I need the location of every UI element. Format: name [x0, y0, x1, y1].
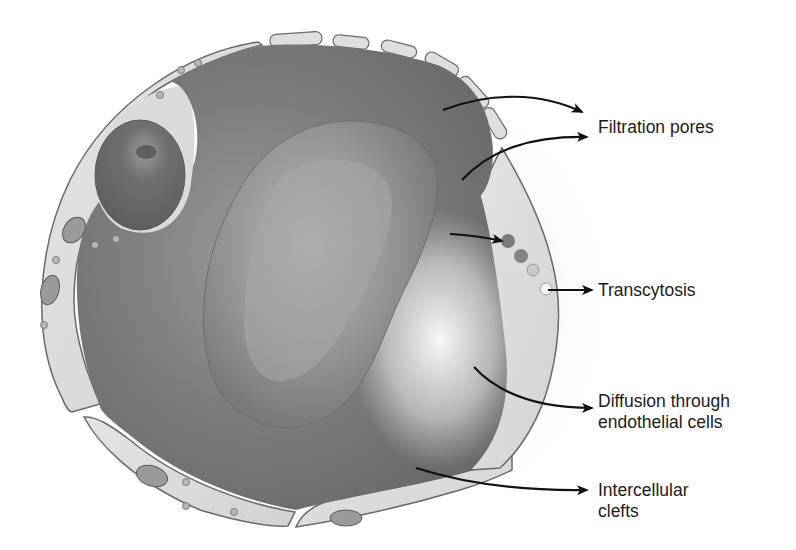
- vesicle-icon: [92, 242, 99, 249]
- vesicle-icon: [113, 236, 120, 243]
- vesicle-icon: [195, 60, 202, 67]
- label-transcytosis: Transcytosis: [598, 280, 696, 301]
- vesicle-icon: [183, 479, 190, 486]
- vesicle-icon: [157, 92, 164, 99]
- vesicle-icon: [501, 234, 515, 248]
- label-intercellular-line1: Intercellular: [598, 480, 688, 501]
- vesicle-icon: [514, 249, 528, 263]
- vesicle-icon: [41, 322, 48, 329]
- mitochondrion-icon: [330, 510, 362, 526]
- label-filtration-pores: Filtration pores: [598, 117, 714, 138]
- vesicle-icon: [527, 264, 539, 276]
- vesicle-icon: [183, 503, 190, 510]
- vesicle-icon: [178, 67, 185, 74]
- nucleolus: [136, 145, 156, 159]
- label-diffusion-line2: endothelial cells: [598, 412, 730, 433]
- label-intercellular-clefts: Intercellular clefts: [598, 480, 688, 522]
- label-intercellular-line2: clefts: [598, 501, 688, 522]
- label-diffusion-through-endothelial-cells: Diffusion through endothelial cells: [598, 391, 730, 433]
- vesicle-icon: [53, 257, 60, 264]
- capillary-diagram: [0, 0, 796, 550]
- label-diffusion-line1: Diffusion through: [598, 391, 730, 412]
- endothelial-nucleus: [95, 120, 185, 230]
- vesicle-icon: [231, 509, 238, 516]
